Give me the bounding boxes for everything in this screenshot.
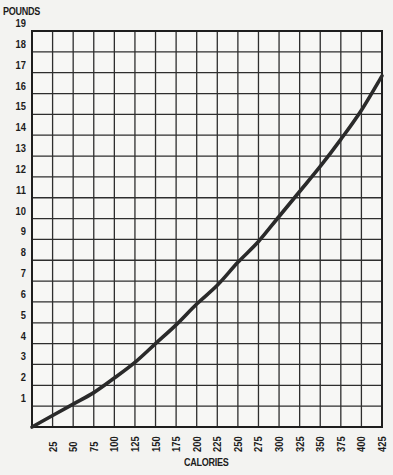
x-tick-label: 175	[170, 436, 182, 452]
x-tick-label: 250	[232, 436, 244, 452]
y-tick-label: 19	[4, 17, 26, 29]
y-tick-label: 8	[4, 246, 26, 258]
y-tick-label: 6	[4, 288, 26, 300]
chart: POUNDS CALORIES 123456789101112131415161…	[0, 0, 393, 475]
y-axis-title: POUNDS	[3, 5, 40, 17]
y-tick-label: 7	[4, 267, 26, 279]
y-tick-label: 9	[4, 225, 26, 237]
x-tick-label: 300	[273, 436, 285, 452]
y-tick-label: 2	[4, 371, 26, 383]
y-tick-label: 15	[4, 100, 26, 112]
plot-area	[0, 0, 393, 475]
x-tick-label: 425	[376, 436, 388, 452]
y-tick-label: 11	[4, 184, 26, 196]
y-tick-label: 14	[4, 121, 26, 133]
y-tick-label: 12	[4, 163, 26, 175]
y-tick-label: 5	[4, 309, 26, 321]
x-tick-label: 350	[314, 436, 326, 452]
y-tick-label: 16	[4, 80, 26, 92]
x-tick-label: 325	[294, 436, 306, 452]
y-tick-label: 17	[4, 59, 26, 71]
y-tick-label: 13	[4, 142, 26, 154]
x-axis-title: CALORIES	[184, 456, 229, 468]
x-tick-label: 75	[88, 442, 100, 452]
y-tick-label: 4	[4, 330, 26, 342]
x-tick-label: 275	[252, 436, 264, 452]
y-tick-label: 18	[4, 38, 26, 50]
x-tick-label: 50	[67, 442, 79, 452]
y-tick-label: 3	[4, 350, 26, 362]
x-tick-label: 25	[47, 442, 59, 452]
x-tick-label: 100	[108, 436, 120, 452]
x-tick-label: 125	[129, 436, 141, 452]
x-tick-label: 375	[335, 436, 347, 452]
grid-background	[32, 31, 382, 427]
x-tick-label: 400	[355, 436, 367, 452]
y-tick-label: 10	[4, 205, 26, 217]
x-tick-label: 150	[150, 436, 162, 452]
x-tick-label: 200	[191, 436, 203, 452]
y-tick-label: 1	[4, 392, 26, 404]
x-tick-label: 225	[211, 436, 223, 452]
